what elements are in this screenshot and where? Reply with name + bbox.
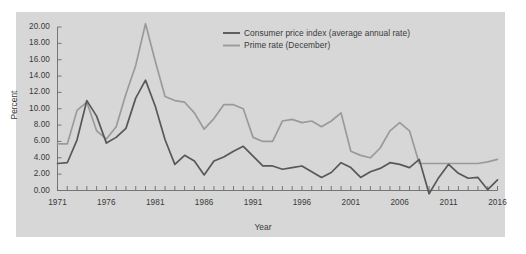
chart-plot-area bbox=[0, 0, 526, 254]
legend-swatches bbox=[223, 33, 240, 46]
axis-tick-marks bbox=[58, 27, 498, 191]
data-series-lines bbox=[58, 24, 498, 194]
axis-lines bbox=[58, 27, 498, 191]
chart-figure: Percent Year 0.002.004.006.008.0010.0012… bbox=[0, 0, 526, 254]
